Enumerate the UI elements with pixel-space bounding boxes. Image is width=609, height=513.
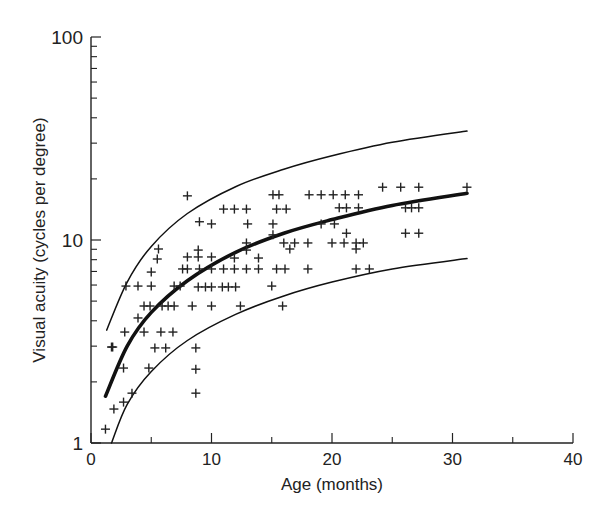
data-point xyxy=(401,229,410,238)
y-tick-label: 1 xyxy=(72,433,83,454)
axes: 010203040110100 xyxy=(51,27,582,469)
data-point xyxy=(154,244,163,253)
data-point xyxy=(120,328,129,337)
data-point xyxy=(119,364,128,373)
data-point xyxy=(147,282,156,291)
data-point xyxy=(303,238,312,247)
data-point xyxy=(188,302,197,311)
data-point xyxy=(236,302,245,311)
data-point xyxy=(352,244,361,253)
x-tick-label: 40 xyxy=(564,450,583,469)
data-point xyxy=(285,244,294,253)
data-point xyxy=(282,205,291,214)
data-point xyxy=(329,190,338,199)
data-point xyxy=(183,264,192,273)
data-point xyxy=(243,219,252,228)
data-point xyxy=(342,203,351,212)
data-point xyxy=(396,183,405,192)
y-axis-label: Visual acuity (cycles per degree) xyxy=(30,117,49,362)
data-point xyxy=(150,343,159,352)
data-point xyxy=(230,264,239,273)
data-point xyxy=(341,190,350,199)
data-point xyxy=(219,205,228,214)
data-point xyxy=(342,229,351,238)
data-point xyxy=(191,343,200,352)
data-point xyxy=(340,238,349,247)
data-point xyxy=(290,238,299,247)
data-point xyxy=(147,268,156,277)
data-point xyxy=(303,264,312,273)
data-point xyxy=(121,282,130,291)
data-point xyxy=(168,328,177,337)
data-point xyxy=(462,183,471,192)
data-point xyxy=(195,217,204,226)
data-point xyxy=(207,252,216,261)
data-point xyxy=(317,190,326,199)
data-point xyxy=(254,264,263,273)
data-point xyxy=(328,238,337,247)
y-tick-label: 100 xyxy=(51,27,83,48)
chart: 010203040110100 Age (months) Visual acui… xyxy=(0,0,609,513)
data-point xyxy=(183,252,192,261)
data-point xyxy=(414,183,423,192)
data-point xyxy=(274,190,283,199)
data-point xyxy=(272,264,281,273)
data-point xyxy=(414,229,423,238)
data-point xyxy=(194,252,203,261)
data-point xyxy=(279,238,288,247)
data-point xyxy=(108,343,117,352)
data-point xyxy=(156,328,165,337)
x-tick-label: 30 xyxy=(443,450,462,469)
data-point xyxy=(191,365,200,374)
data-point xyxy=(207,219,216,228)
x-tick-label: 10 xyxy=(202,450,221,469)
data-point xyxy=(133,313,142,322)
data-point xyxy=(191,389,200,398)
data-point xyxy=(140,328,149,337)
x-tick-label: 20 xyxy=(323,450,342,469)
data-point xyxy=(278,302,287,311)
curve-lower-bound xyxy=(112,259,468,443)
data-point xyxy=(170,302,179,311)
data-point xyxy=(133,282,142,291)
data-point xyxy=(242,264,251,273)
data-point xyxy=(272,205,281,214)
data-point xyxy=(101,425,110,434)
data-point xyxy=(183,191,192,200)
data-point xyxy=(109,405,118,414)
data-point xyxy=(254,254,263,263)
data-point xyxy=(242,205,251,214)
data-point xyxy=(153,255,162,264)
x-axis-label: Age (months) xyxy=(281,475,383,494)
data-point xyxy=(359,238,368,247)
data-point xyxy=(305,190,314,199)
data-point xyxy=(354,190,363,199)
data-point xyxy=(352,264,361,273)
data-point xyxy=(219,264,228,273)
data-point xyxy=(268,219,277,228)
data-point xyxy=(378,183,387,192)
data-point xyxy=(414,203,423,212)
data-point xyxy=(161,343,170,352)
curves xyxy=(106,131,468,443)
data-point xyxy=(231,282,240,291)
data-point xyxy=(281,264,290,273)
x-tick-label: 0 xyxy=(86,450,95,469)
data-point xyxy=(230,205,239,214)
data-point xyxy=(127,389,136,398)
data-point xyxy=(207,282,216,291)
data-point xyxy=(207,302,216,311)
data-point xyxy=(267,282,276,291)
y-tick-label: 10 xyxy=(62,230,83,251)
